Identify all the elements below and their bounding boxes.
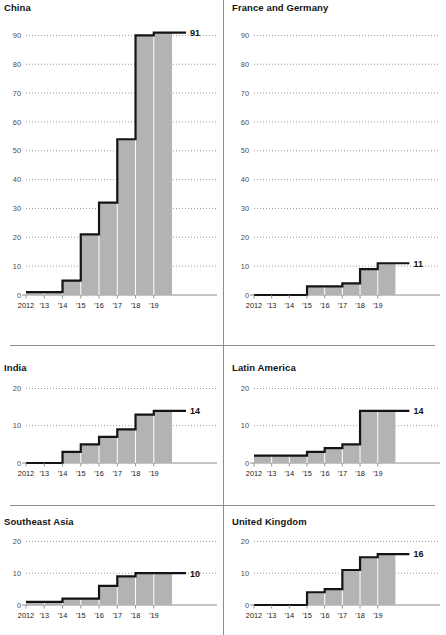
x-tick-label: '17 [112, 611, 122, 620]
column-divider-middle [223, 345, 224, 505]
plot-india: 01020142012'13'14'15'16'17'18'19 [0, 373, 223, 481]
x-tick-label: '16 [94, 301, 104, 310]
x-tick-label: '16 [320, 301, 330, 310]
y-tick-label: 0 [17, 291, 21, 300]
end-value-label: 14 [190, 406, 200, 416]
panel-title-india: India [0, 362, 223, 373]
end-value-label: 16 [413, 549, 423, 559]
y-tick-label: 0 [245, 291, 249, 300]
end-value-label: 91 [190, 28, 200, 38]
x-tick-label: '17 [112, 469, 122, 478]
chart-svg: 0102030405060708090912012'13'14'15'16'17… [0, 13, 223, 313]
plot-latin-america: 01020142012'13'14'15'16'17'18'19 [228, 373, 446, 481]
end-value-label: 10 [190, 569, 200, 579]
y-tick-label: 70 [13, 89, 21, 98]
y-tick-label: 0 [17, 601, 21, 610]
end-value-label: 14 [413, 406, 423, 416]
y-tick-label: 40 [13, 175, 21, 184]
plot-china: 0102030405060708090912012'13'14'15'16'17… [0, 13, 223, 313]
x-tick-label: '17 [338, 611, 348, 620]
panel-latin-america: Latin America 01020142012'13'14'15'16'17… [228, 362, 446, 502]
end-value-label: 11 [413, 259, 423, 269]
y-tick-label: 0 [245, 601, 249, 610]
x-tick-label: '15 [76, 611, 86, 620]
panel-southeast-asia: Southeast Asia 01020102012'13'14'15'16'1… [0, 516, 223, 635]
x-tick-label: '18 [355, 611, 365, 620]
x-tick-label: 2012 [246, 611, 262, 620]
y-tick-label: 20 [13, 233, 21, 242]
y-tick-label: 10 [13, 569, 21, 578]
panel-china: China 0102030405060708090912012'13'14'15… [0, 2, 223, 332]
x-tick-label: '14 [285, 611, 295, 620]
x-tick-label: '19 [149, 611, 159, 620]
x-tick-label: '17 [112, 301, 122, 310]
y-tick-label: 50 [241, 146, 249, 155]
x-tick-label: 2012 [18, 611, 34, 620]
x-tick-label: '13 [39, 301, 49, 310]
y-tick-label: 90 [13, 31, 21, 40]
x-tick-label: '19 [373, 301, 383, 310]
y-tick-label: 20 [241, 233, 249, 242]
y-tick-label: 80 [241, 60, 249, 69]
plot-france-and-germany: 0102030405060708090112012'13'14'15'16'17… [228, 13, 446, 313]
panel-united-kingdom: United Kingdom 01020162012'13'14'15'16'1… [228, 516, 446, 635]
x-tick-label: '13 [267, 611, 277, 620]
y-tick-label: 10 [241, 569, 249, 578]
x-tick-label: '15 [302, 469, 312, 478]
plot-southeast-asia: 01020102012'13'14'15'16'17'18'19 [0, 527, 223, 623]
x-tick-label: '15 [302, 301, 312, 310]
x-tick-label: '19 [149, 301, 159, 310]
x-tick-label: '17 [338, 469, 348, 478]
x-tick-label: '16 [320, 611, 330, 620]
x-tick-label: '14 [285, 301, 295, 310]
y-tick-label: 0 [17, 459, 21, 468]
x-tick-label: '18 [131, 469, 141, 478]
x-tick-label: '18 [131, 611, 141, 620]
x-tick-label: '13 [267, 469, 277, 478]
x-tick-label: '19 [149, 469, 159, 478]
x-tick-label: '18 [355, 301, 365, 310]
chart-svg: 01020162012'13'14'15'16'17'18'19 [228, 527, 446, 623]
y-tick-label: 50 [13, 146, 21, 155]
y-tick-label: 10 [13, 421, 21, 430]
x-tick-label: 2012 [18, 469, 34, 478]
column-divider-bottom [223, 505, 224, 635]
y-tick-label: 40 [241, 175, 249, 184]
chart-svg: 0102030405060708090112012'13'14'15'16'17… [228, 13, 446, 313]
panel-title-latin-america: Latin America [228, 362, 446, 373]
panel-france-and-germany: France and Germany 010203040506070809011… [228, 2, 446, 332]
y-tick-label: 0 [245, 459, 249, 468]
y-tick-label: 10 [241, 262, 249, 271]
y-tick-label: 20 [241, 384, 249, 393]
x-tick-label: '15 [76, 301, 86, 310]
column-divider-top [223, 0, 224, 345]
chart-svg: 01020142012'13'14'15'16'17'18'19 [228, 373, 446, 481]
x-tick-label: '15 [76, 469, 86, 478]
x-tick-label: '16 [320, 469, 330, 478]
chart-svg: 01020102012'13'14'15'16'17'18'19 [0, 527, 223, 623]
y-tick-label: 30 [241, 204, 249, 213]
y-tick-label: 10 [13, 262, 21, 271]
x-tick-label: '15 [302, 611, 312, 620]
panel-title-france-and-germany: France and Germany [228, 2, 446, 13]
y-tick-label: 20 [13, 537, 21, 546]
panel-india: India 01020142012'13'14'15'16'17'18'19 [0, 362, 223, 502]
y-tick-label: 70 [241, 89, 249, 98]
panel-title-china: China [0, 2, 223, 13]
panel-title-southeast-asia: Southeast Asia [0, 516, 223, 527]
x-tick-label: 2012 [18, 301, 34, 310]
y-tick-label: 60 [241, 118, 249, 127]
y-tick-label: 30 [13, 204, 21, 213]
x-tick-label: '13 [39, 469, 49, 478]
x-tick-label: 2012 [246, 469, 262, 478]
x-tick-label: '14 [58, 469, 68, 478]
x-tick-label: 2012 [246, 301, 262, 310]
y-tick-label: 80 [13, 60, 21, 69]
x-tick-label: '13 [267, 301, 277, 310]
chart-svg: 01020142012'13'14'15'16'17'18'19 [0, 373, 223, 481]
x-tick-label: '18 [355, 469, 365, 478]
x-tick-label: '14 [285, 469, 295, 478]
x-tick-label: '14 [58, 301, 68, 310]
y-tick-label: 10 [241, 421, 249, 430]
x-tick-label: '17 [338, 301, 348, 310]
